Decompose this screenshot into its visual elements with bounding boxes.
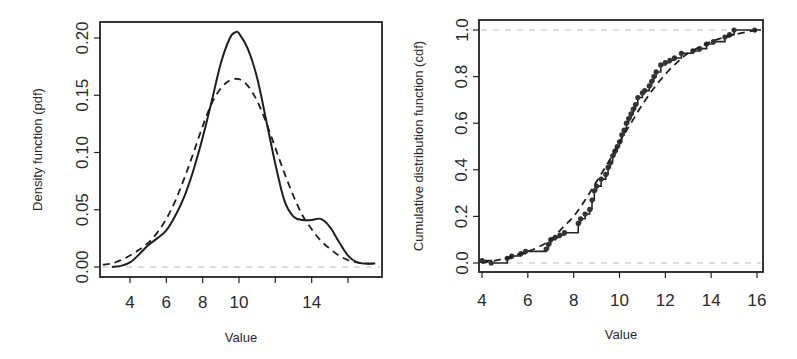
x-tick-label: 16 — [748, 291, 767, 310]
ecdf-point — [587, 207, 592, 212]
y-tick-label: 1.0 — [453, 18, 472, 42]
x-tick-label: 14 — [302, 293, 321, 312]
y-tick-label: 0.10 — [73, 136, 92, 169]
x-tick-label: 6 — [162, 293, 171, 312]
y-tick-label: 0.0 — [453, 251, 472, 275]
plot-frame — [479, 20, 763, 272]
x-axis-label: Value — [225, 330, 257, 345]
y-tick-label: 0.6 — [453, 111, 472, 135]
ecdf-point — [583, 211, 588, 216]
x-axis-label: Value — [605, 327, 637, 342]
ecdf-point — [642, 88, 647, 93]
density-plot-panel: 46810140.000.050.100.150.20ValueDensity … — [30, 21, 382, 345]
ecdf-point — [651, 74, 656, 79]
ecdf-point — [562, 230, 567, 235]
x-tick-label: 14 — [702, 291, 721, 310]
ecdf-point — [544, 246, 549, 251]
ecdf-point — [649, 79, 654, 84]
ecdf-point — [679, 51, 684, 56]
ecdf-point — [599, 177, 604, 182]
x-tick-label: 8 — [198, 293, 207, 312]
ecdf-point — [489, 260, 494, 265]
ecdf-point — [633, 102, 638, 107]
ecdf-point — [603, 172, 608, 177]
y-tick-label: 0.4 — [453, 158, 472, 182]
ecdf-point — [592, 188, 597, 193]
y-tick-label: 0.00 — [73, 250, 92, 283]
x-tick-label: 8 — [569, 291, 578, 310]
x-tick-label: 6 — [523, 291, 532, 310]
ecdf-point — [546, 242, 551, 247]
ecdf-point — [626, 116, 631, 121]
ecdf-point — [654, 69, 659, 74]
y-tick-label: 0.20 — [73, 21, 92, 54]
x-tick-label: 12 — [656, 291, 675, 310]
empirical-curve-solid — [112, 31, 375, 267]
cdf-plot-panel: 468101214160.00.20.40.60.81.0ValueCumula… — [411, 18, 766, 342]
y-axis-label: Density function (pdf) — [30, 88, 45, 211]
y-tick-label: 0.05 — [73, 193, 92, 226]
x-tick-label: 10 — [230, 293, 249, 312]
ecdf-point — [628, 111, 633, 116]
fitted-curve-dashed — [103, 79, 376, 265]
x-tick-label: 4 — [477, 291, 486, 310]
ecdf-point — [589, 197, 594, 202]
x-tick-label: 4 — [125, 293, 134, 312]
y-tick-label: 0.15 — [73, 79, 92, 112]
ecdf-point — [624, 121, 629, 126]
ecdf-point — [731, 27, 736, 32]
plot-frame — [100, 22, 382, 277]
ecdf-point — [667, 58, 672, 63]
x-tick-label: 10 — [610, 291, 629, 310]
ecdf-point — [578, 216, 583, 221]
ecdf-point — [605, 165, 610, 170]
ecdf-point — [647, 83, 652, 88]
y-tick-label: 0.8 — [453, 65, 472, 89]
ecdf-point — [557, 232, 562, 237]
ecdf-point — [658, 62, 663, 67]
ecdf-point — [663, 60, 668, 65]
y-tick-label: 0.2 — [453, 205, 472, 229]
ecdf-point — [631, 107, 636, 112]
ecdf-step-line — [482, 30, 761, 263]
ecdf-point — [672, 55, 677, 60]
ecdf-point — [576, 221, 581, 226]
ecdf-point — [610, 153, 615, 158]
chart-figure: 46810140.000.050.100.150.20ValueDensity … — [0, 0, 797, 359]
y-axis-label: Cumulative distribution function (cdf) — [411, 41, 426, 251]
ecdf-point — [635, 95, 640, 100]
